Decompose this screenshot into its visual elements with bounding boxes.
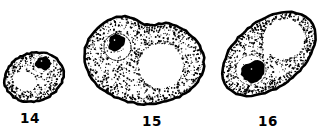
figure: 14 15 16	[0, 0, 321, 134]
cell-16-drawing	[222, 12, 316, 97]
cell-15-label: 15	[142, 113, 162, 129]
nucleus	[104, 33, 131, 61]
cell-14-drawing	[4, 52, 64, 102]
nucleus	[34, 54, 54, 74]
cell-diagram-svg: 14 15 16	[0, 0, 321, 134]
cell-15-drawing	[85, 16, 205, 105]
cell-16-label: 16	[258, 113, 278, 129]
cell-14-label: 14	[20, 110, 40, 126]
nucleus	[236, 55, 266, 85]
cell-membrane-outline	[222, 12, 315, 96]
